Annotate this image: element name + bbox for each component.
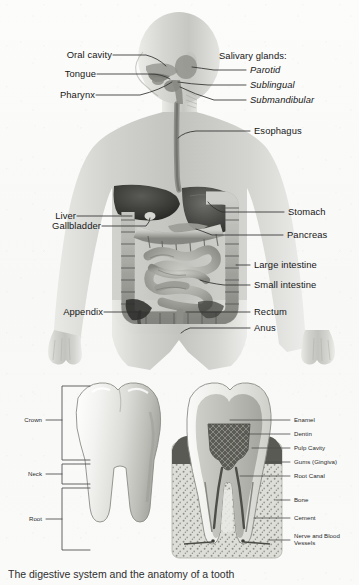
label-root-canal: Root Canal: [294, 472, 325, 479]
label-rectum: Rectum: [254, 307, 287, 318]
label-root: Root: [2, 515, 42, 522]
label-pancreas: Pancreas: [287, 230, 327, 241]
label-small-intestine: Small intestine: [254, 280, 316, 291]
label-anus: Anus: [254, 323, 276, 334]
sectioned-tooth-illustration: [172, 383, 282, 558]
label-sublingual: Sublingual: [250, 80, 295, 91]
label-esophagus: Esophagus: [254, 126, 302, 137]
label-submandibular: Submandibular: [250, 95, 314, 106]
label-pharynx: Pharynx: [22, 90, 95, 101]
esophagus-structure: [177, 104, 180, 190]
label-appendix: Appendix: [20, 307, 103, 318]
label-neck: Neck: [2, 470, 42, 477]
label-gums-gingiva: Gums (Gingiva): [294, 458, 337, 465]
tooth-anatomy-panel: Crown Neck Root Enamel Dentin Pulp Cavit…: [0, 372, 359, 562]
label-nerve-and-blood-vessels: Nerve and Blood Vessels: [294, 532, 354, 546]
label-parotid: Parotid: [250, 65, 280, 76]
label-tongue: Tongue: [22, 69, 96, 80]
label-stomach: Stomach: [288, 207, 326, 218]
label-crown: Crown: [2, 416, 42, 423]
label-large-intestine: Large intestine: [254, 260, 317, 271]
label-dentin: Dentin: [294, 430, 312, 437]
label-gallbladder: Gallbladder: [14, 221, 101, 232]
label-bone: Bone: [294, 496, 308, 503]
label-enamel: Enamel: [294, 416, 315, 423]
figure-page: Oral cavity Tongue Pharynx Liver Gallbla…: [0, 0, 359, 585]
figure-caption: The digestive system and the anatomy of …: [8, 568, 356, 581]
label-cement: Cement: [294, 514, 316, 521]
label-oral-cavity: Oral cavity: [22, 50, 112, 61]
digestive-system-panel: Oral cavity Tongue Pharynx Liver Gallbla…: [0, 0, 359, 370]
label-pulp-cavity: Pulp Cavity: [294, 444, 325, 451]
whole-tooth-illustration: [76, 383, 160, 522]
label-salivary-glands: Salivary glands:: [219, 51, 287, 62]
